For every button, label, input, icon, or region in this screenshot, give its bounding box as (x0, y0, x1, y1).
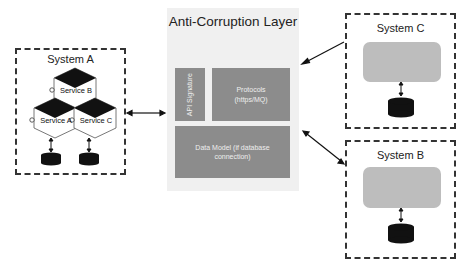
system-b-component (363, 167, 441, 208)
system-b-box: System B (345, 140, 456, 259)
service-c-label: Service C (73, 116, 119, 125)
service-a-db-link (49, 138, 53, 152)
system-c-title: System C (347, 22, 454, 34)
connector-system-c-acl (302, 42, 344, 64)
system-b-title: System B (347, 149, 454, 161)
database-icon (41, 153, 61, 166)
connector-system-b-acl (303, 131, 344, 164)
database-icon (79, 153, 99, 166)
service-c-db-link (87, 138, 91, 152)
connector-system-a-acl (127, 111, 165, 116)
system-c-box: System C (345, 13, 456, 129)
service-b-label: Service B (53, 86, 99, 95)
system-c-component (363, 42, 441, 82)
